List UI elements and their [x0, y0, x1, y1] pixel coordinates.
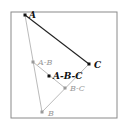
point-c: C [88, 60, 103, 70]
point-marker [32, 61, 35, 64]
point-abc: A-B-C [48, 71, 84, 81]
point-label: A-B [37, 58, 52, 67]
triangle-diagram: ACBA-BA-B-CB-C [0, 0, 121, 125]
point-marker [48, 75, 51, 78]
point-label: A-B-C [52, 71, 83, 81]
edge-a-c [25, 15, 89, 64]
point-marker [88, 63, 91, 66]
point-label: A [28, 10, 36, 20]
point-label: B [47, 109, 54, 118]
point-bc: B-C [64, 84, 85, 93]
point-b: B [41, 109, 55, 118]
point-marker [41, 111, 44, 114]
point-marker [24, 14, 27, 17]
point-marker [64, 87, 67, 90]
point-ab: A-B [32, 58, 53, 67]
edges-group [25, 15, 89, 112]
point-label: C [94, 60, 102, 70]
point-label: B-C [69, 84, 85, 93]
